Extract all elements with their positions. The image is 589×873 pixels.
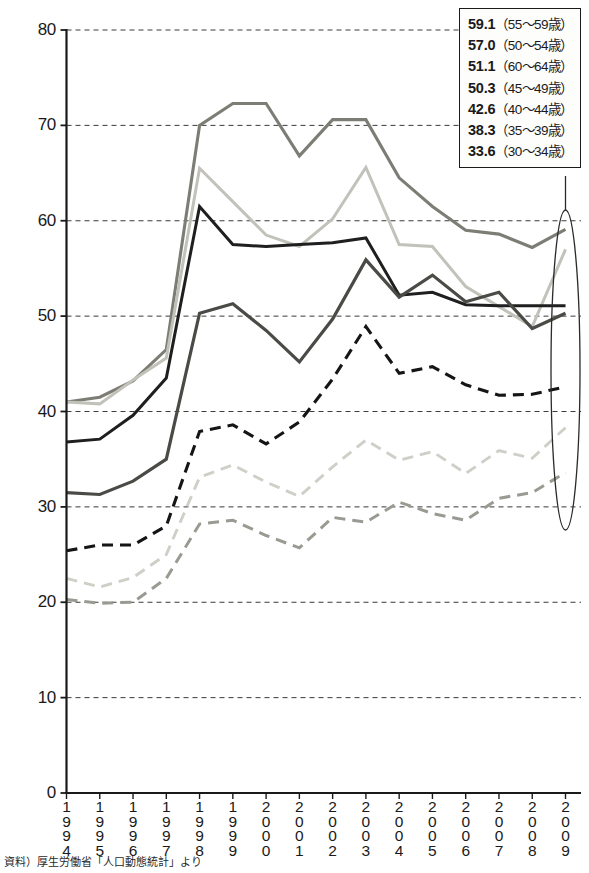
legend-age-range: （30〜34歳） (495, 142, 572, 162)
x-tick-label-2000: 2000 (258, 800, 274, 858)
x-tick-label-2002: 2002 (325, 800, 341, 858)
series-line-3 (67, 260, 566, 495)
legend-value: 50.3 (468, 78, 495, 98)
x-tick-label-2005: 2005 (424, 800, 440, 858)
legend-row-5: 38.3（35〜39歳） (468, 120, 574, 141)
legend-row-2: 51.1（60〜64歳） (468, 56, 574, 77)
y-tick-label-30: 30 (0, 497, 56, 517)
legend-value: 42.6 (468, 99, 495, 119)
y-tick-label-70: 70 (0, 115, 56, 135)
legend-box: 59.1（55〜59歳）57.0（50〜54歳）51.1（60〜64歳）50.3… (459, 8, 581, 168)
legend-age-range: （60〜64歳） (495, 57, 572, 77)
legend-row-0: 59.1（55〜59歳） (468, 14, 574, 35)
x-tick-label-1999: 1999 (225, 800, 241, 858)
legend-age-range: （40〜44歳） (495, 100, 572, 120)
x-tick-label-1996: 1996 (125, 800, 141, 858)
series-line-6 (67, 473, 566, 604)
y-tick-label-60: 60 (0, 211, 56, 231)
y-tick-label-0: 0 (0, 783, 56, 803)
data-series-layer (67, 103, 566, 603)
legend-age-range: （55〜59歳） (495, 15, 572, 35)
legend-value: 33.6 (468, 141, 495, 161)
legend-row-6: 33.6（30〜34歳） (468, 141, 574, 162)
series-line-4 (67, 327, 566, 551)
x-tick-label-1997: 1997 (158, 800, 174, 858)
x-tick-label-1998: 1998 (192, 800, 208, 858)
legend-age-range: （50〜54歳） (495, 36, 572, 56)
endpoint-ellipse-annotation (551, 176, 580, 530)
legend-age-range: （35〜39歳） (495, 121, 572, 141)
x-tick-label-2007: 2007 (491, 800, 507, 858)
source-caption: 資料）厚生労働省「人口動態統計」より (4, 856, 589, 869)
legend-age-range: （45〜49歳） (495, 79, 572, 99)
x-tick-label-1995: 1995 (92, 800, 108, 858)
x-tick-label-2001: 2001 (291, 800, 307, 858)
y-tick-label-10: 10 (0, 688, 56, 708)
y-tick-label-40: 40 (0, 402, 56, 422)
legend-row-4: 42.6（40〜44歳） (468, 99, 574, 120)
x-tick-label-1994: 1994 (59, 800, 75, 858)
y-tick-label-20: 20 (0, 592, 56, 612)
y-tick-label-80: 80 (0, 20, 56, 40)
legend-value: 59.1 (468, 14, 495, 34)
x-tick-label-2003: 2003 (358, 800, 374, 858)
legend-row-3: 50.3（45〜49歳） (468, 78, 574, 99)
x-tick-label-2004: 2004 (391, 800, 407, 858)
x-tick-label-2009: 2009 (558, 800, 574, 858)
x-tick-label-2008: 2008 (524, 800, 540, 858)
legend-row-1: 57.0（50〜54歳） (468, 35, 574, 56)
series-line-1 (67, 167, 566, 404)
legend-value: 38.3 (468, 120, 495, 140)
chart-root: 01020304050607080 1994199519961997199819… (0, 0, 589, 873)
legend-value: 57.0 (468, 35, 495, 55)
y-tick-label-50: 50 (0, 306, 56, 326)
legend-value: 51.1 (468, 56, 495, 76)
x-tick-label-2006: 2006 (458, 800, 474, 858)
series-line-2 (67, 206, 566, 442)
endpoint-ellipse-shape (551, 210, 580, 530)
